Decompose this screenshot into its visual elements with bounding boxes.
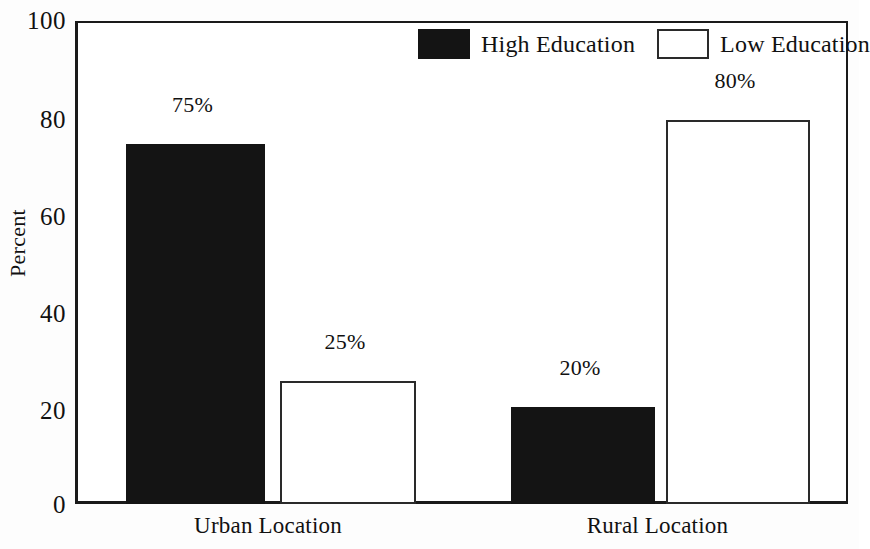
y-tick-label-80: 80 xyxy=(0,107,66,132)
bar-rural-low-education[interactable] xyxy=(666,120,810,504)
legend-item-high-education[interactable]: High Education xyxy=(418,25,657,63)
bar-value-rural-low-education: 80% xyxy=(663,70,807,92)
legend-label: Low Education xyxy=(720,32,870,56)
y-tick-label-text: 0 xyxy=(0,492,66,517)
y-tick-label-20: 20 xyxy=(0,398,66,423)
bar-urban-high-education[interactable] xyxy=(126,144,265,504)
bar-value-urban-low-education: 25% xyxy=(277,331,413,353)
x-category-label-urban: Urban Location xyxy=(123,513,413,539)
filled-square-icon xyxy=(418,29,470,59)
bar-value-urban-high-education: 75% xyxy=(123,94,262,116)
bar-value-rural-high-education: 20% xyxy=(508,357,652,379)
legend-label: High Education xyxy=(481,32,635,56)
legend: High Education Low Education xyxy=(418,25,870,63)
y-tick-label-text: 20 xyxy=(0,398,66,423)
y-tick-label-100: 100 xyxy=(0,8,66,33)
legend-item-low-education[interactable]: Low Education xyxy=(657,25,870,63)
y-tick-label-text: 80 xyxy=(0,107,66,132)
x-category-label-rural: Rural Location xyxy=(508,513,807,539)
y-axis-title: Percent xyxy=(7,173,29,313)
y-tick-label-0: 0 xyxy=(0,492,66,517)
bar-urban-low-education[interactable] xyxy=(280,381,416,504)
open-square-icon xyxy=(657,29,709,59)
bar-rural-high-education[interactable] xyxy=(511,407,655,504)
y-tick-label-text: 100 xyxy=(0,8,66,33)
